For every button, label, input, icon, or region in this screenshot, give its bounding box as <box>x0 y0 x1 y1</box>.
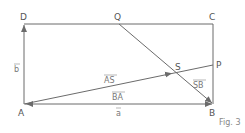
point-label-a: A <box>18 108 25 118</box>
point-label-c: C <box>209 12 215 22</box>
point-label-s: S <box>175 62 181 72</box>
figure-caption: Fig. 3 <box>219 118 241 127</box>
point-label-p: P <box>216 60 222 70</box>
vector-label-b: b <box>14 65 19 74</box>
vector-qb-arrow <box>119 24 212 103</box>
vector-diagram: D Q C P S A B b AS BA SB a Fig. 3 <box>0 0 245 133</box>
vector-label-sb: SB <box>193 81 204 90</box>
point-label-b: B <box>209 108 215 118</box>
point-label-q: Q <box>114 12 121 22</box>
vector-label-a: a <box>116 109 121 118</box>
vector-label-as: AS <box>104 76 115 85</box>
point-label-d: D <box>20 12 27 22</box>
vector-label-ba: BA <box>112 93 123 102</box>
